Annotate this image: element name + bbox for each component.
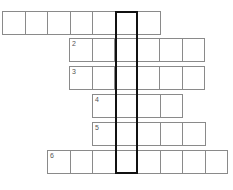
crossword-cell[interactable] <box>160 150 184 174</box>
crossword-cell[interactable] <box>115 11 139 35</box>
crossword-cell[interactable] <box>160 94 184 118</box>
crossword-cell[interactable] <box>137 150 161 174</box>
crossword-cell[interactable] <box>182 66 206 90</box>
crossword-cell[interactable] <box>115 150 139 174</box>
crossword-cell[interactable]: 2 <box>69 38 93 62</box>
crossword-cell[interactable] <box>114 66 138 90</box>
crossword-cell[interactable] <box>137 11 161 35</box>
crossword-cell[interactable] <box>92 66 116 90</box>
crossword-cell[interactable] <box>70 11 94 35</box>
crossword-cell[interactable] <box>160 122 184 146</box>
crossword-cell[interactable] <box>92 11 116 35</box>
crossword-cell[interactable] <box>182 150 206 174</box>
clue-number: 3 <box>72 68 76 75</box>
crossword-cell[interactable] <box>2 11 26 35</box>
crossword-cell[interactable] <box>159 66 183 90</box>
crossword-cell[interactable] <box>137 122 161 146</box>
crossword-cell[interactable]: 5 <box>92 122 116 146</box>
clue-number: 4 <box>95 96 99 103</box>
crossword-cell[interactable] <box>114 38 138 62</box>
crossword-cell[interactable] <box>137 94 161 118</box>
clue-number: 5 <box>95 124 99 131</box>
clue-number: 2 <box>72 40 76 47</box>
crossword-cell[interactable] <box>182 122 206 146</box>
crossword-cell[interactable] <box>92 150 116 174</box>
crossword-cell[interactable] <box>92 38 116 62</box>
crossword-cell[interactable]: 4 <box>92 94 116 118</box>
crossword-cell[interactable] <box>115 122 139 146</box>
crossword-cell[interactable] <box>115 94 139 118</box>
crossword-cell[interactable] <box>159 38 183 62</box>
crossword-cell[interactable]: 3 <box>69 66 93 90</box>
crossword-cell[interactable] <box>47 11 71 35</box>
crossword-cell[interactable] <box>137 66 161 90</box>
crossword-cell[interactable]: 6 <box>47 150 71 174</box>
crossword-cell[interactable] <box>205 150 229 174</box>
crossword-cell[interactable] <box>70 150 94 174</box>
clue-number: 6 <box>50 152 54 159</box>
crossword-cell[interactable] <box>182 38 206 62</box>
crossword-cell[interactable] <box>137 38 161 62</box>
crossword-cell[interactable] <box>25 11 49 35</box>
